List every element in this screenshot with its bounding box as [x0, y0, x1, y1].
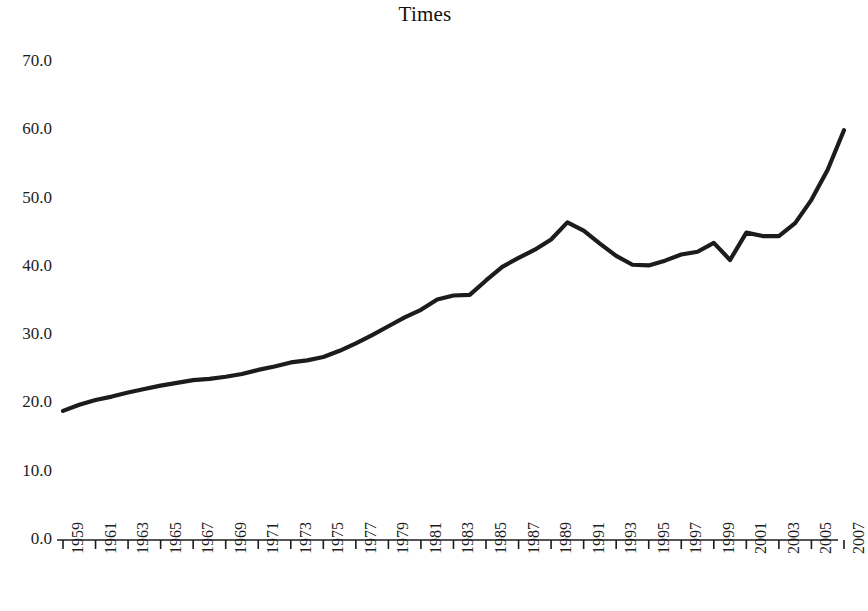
x-axis-tick-label: 1983 [459, 522, 477, 554]
x-axis-tick-label: 1995 [655, 522, 673, 554]
x-axis-tick-label: 1993 [622, 522, 640, 554]
x-axis-tick-label: 1959 [69, 522, 87, 554]
x-axis-tick-label: 1989 [557, 522, 575, 554]
x-axis-tick-label: 1977 [362, 522, 380, 554]
x-axis-tick-label: 1975 [329, 522, 347, 554]
x-axis-tick-label: 1969 [232, 522, 250, 554]
x-axis-tick-label: 1979 [394, 522, 412, 554]
x-axis-tick-label: 1987 [525, 522, 543, 554]
x-axis-tick-label: 1999 [720, 522, 738, 554]
x-axis-tick-label: 2003 [785, 522, 803, 554]
x-axis-tick-label: 1961 [102, 522, 120, 554]
x-axis-tick-label: 1973 [297, 522, 315, 554]
x-axis-tick-label: 2005 [817, 522, 835, 554]
x-axis-tick-label: 1965 [167, 522, 185, 554]
x-axis-tick-label: 1971 [264, 522, 282, 554]
x-axis-tick-label: 1963 [134, 522, 152, 554]
x-axis-tick-label: 1981 [427, 522, 445, 554]
x-axis-tick-label: 1991 [590, 522, 608, 554]
x-axis-tick-label: 2001 [752, 522, 770, 554]
x-axis-tick-label: 2007 [850, 522, 868, 554]
x-axis-tick-label: 1985 [492, 522, 510, 554]
x-axis-tick-label: 1997 [687, 522, 705, 554]
x-axis-tick-label: 1967 [199, 522, 217, 554]
